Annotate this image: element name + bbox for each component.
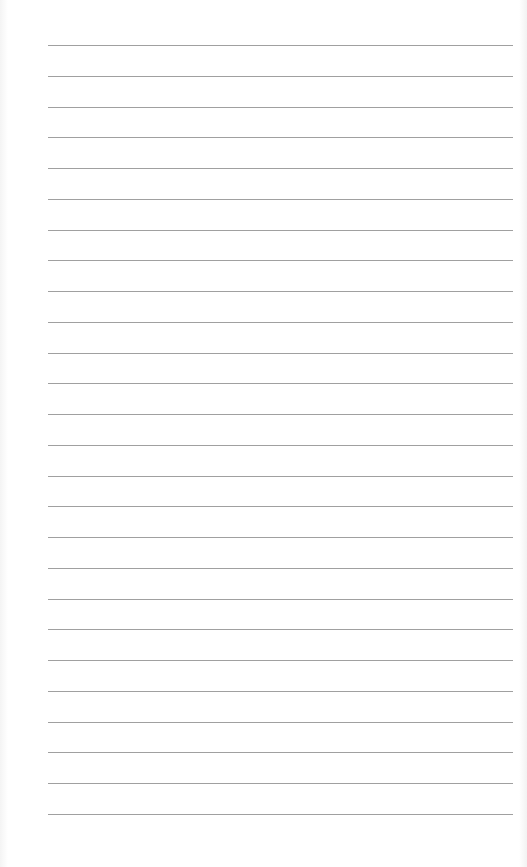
ruled-line bbox=[48, 629, 513, 630]
ruled-line bbox=[48, 414, 513, 415]
ruled-line bbox=[48, 599, 513, 600]
ruled-line bbox=[48, 783, 513, 784]
ruled-line bbox=[48, 814, 513, 815]
ruled-line bbox=[48, 137, 513, 138]
ruled-line bbox=[48, 291, 513, 292]
ruled-line bbox=[48, 506, 513, 507]
ruled-line bbox=[48, 383, 513, 384]
ruled-line bbox=[48, 691, 513, 692]
ruled-line bbox=[48, 230, 513, 231]
ruled-line bbox=[48, 353, 513, 354]
ruled-line bbox=[48, 76, 513, 77]
ruled-line bbox=[48, 568, 513, 569]
ruled-line bbox=[48, 168, 513, 169]
ruled-line bbox=[48, 752, 513, 753]
ruled-line bbox=[48, 445, 513, 446]
ruled-line bbox=[48, 199, 513, 200]
ruled-line bbox=[48, 722, 513, 723]
ruled-line bbox=[48, 260, 513, 261]
ruled-line bbox=[48, 45, 513, 46]
lined-paper-page bbox=[0, 0, 527, 867]
ruled-line bbox=[48, 537, 513, 538]
ruled-line bbox=[48, 107, 513, 108]
ruled-line bbox=[48, 476, 513, 477]
ruled-line bbox=[48, 322, 513, 323]
ruled-line bbox=[48, 660, 513, 661]
